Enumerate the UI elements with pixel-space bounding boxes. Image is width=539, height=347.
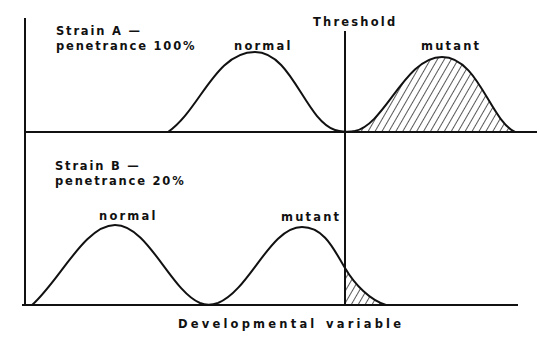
strain-a-normal-curve [168, 52, 355, 132]
strain-b-normal-label: normal [99, 210, 158, 223]
strain-b-penetrance: penetrance 20% [55, 175, 185, 188]
strain-a-penetrance: penetrance 100% [56, 40, 196, 53]
strain-a-mutant-hatch [355, 57, 515, 132]
strain-a-title: Strain A — [56, 25, 142, 38]
strain-b-mutant-hatch [345, 268, 386, 305]
x-axis-label-developmental: Developmental [178, 318, 318, 331]
strain-b-title: Strain B — [55, 160, 141, 173]
strain-a-normal-label: normal [234, 40, 293, 53]
strain-a-mutant-label: mutant [421, 40, 481, 53]
strain-b-mutant-label: mutant [281, 211, 341, 224]
threshold-label: Threshold [313, 16, 397, 29]
x-axis-label-variable: variable [326, 318, 404, 331]
penetrance-diagram: Strain A — penetrance 100% normal mutant… [0, 0, 539, 347]
strain-b-normal-curve [32, 225, 218, 305]
